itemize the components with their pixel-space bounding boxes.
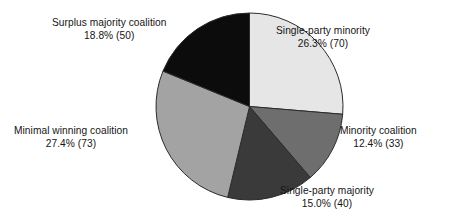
slice-label-title: Single-party majority: [280, 184, 374, 197]
slice-label-single-party-minority: Single-party minority 26.3% (70): [276, 24, 370, 50]
slice-label-title: Surplus majority coalition: [52, 16, 167, 29]
slice-label-title: Minority coalition: [340, 124, 417, 137]
slice-label-title: Single-party minority: [276, 24, 370, 37]
chart-page: Single-party minority 26.3% (70) Minorit…: [0, 0, 451, 219]
slice-label-title: Minimal winning coalition: [14, 124, 128, 137]
slice-label-single-party-majority: Single-party majority 15.0% (40): [280, 184, 374, 210]
slice-label-value: 12.4% (33): [340, 137, 417, 150]
slice-label-value: 18.8% (50): [52, 29, 167, 42]
slice-label-value: 26.3% (70): [276, 37, 370, 50]
slice-label-minority-coalition: Minority coalition 12.4% (33): [340, 124, 417, 150]
slice-label-value: 15.0% (40): [280, 197, 374, 210]
slice-label-surplus-majority-coalition: Surplus majority coalition 18.8% (50): [52, 16, 167, 42]
slice-label-value: 27.4% (73): [14, 137, 128, 150]
slice-label-minimal-winning-coalition: Minimal winning coalition 27.4% (73): [14, 124, 128, 150]
